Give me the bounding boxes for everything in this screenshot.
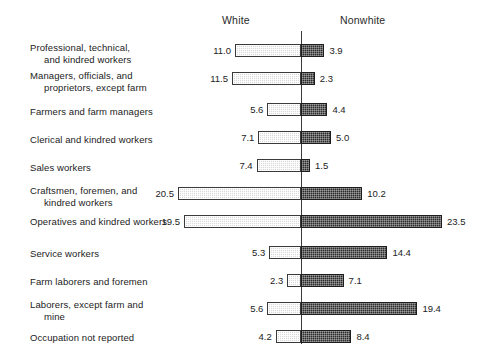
bar-white	[267, 302, 301, 315]
row-label: Operatives and kindred workers	[30, 216, 208, 228]
row-label: Service workers	[30, 248, 208, 260]
row-label-line2: and kindred workers	[30, 54, 208, 66]
row-label-line1: Laborers, except farm and	[30, 299, 143, 310]
bar-nonwhite	[301, 215, 442, 228]
value-label-nonwhite: 10.2	[367, 187, 386, 200]
value-label-white: 5.6	[221, 103, 263, 116]
value-label-white: 4.2	[230, 330, 272, 343]
value-label-white: 11.0	[189, 44, 231, 57]
bar-white	[287, 274, 301, 287]
row-label-line2: mine	[30, 311, 208, 323]
bar-nonwhite	[301, 330, 351, 343]
bar-white	[184, 215, 301, 228]
bar-white	[235, 44, 301, 57]
row-label: Clerical and kindred workers	[30, 134, 208, 146]
row-label: Managers, officials, andproprietors, exc…	[30, 70, 208, 93]
row-label: Professional, technical,and kindred work…	[30, 42, 208, 65]
bar-nonwhite	[301, 159, 310, 172]
row-label-line1: Craftsmen, foremen, and	[30, 185, 137, 196]
row-label-line1: Farmers and farm managers	[30, 106, 153, 117]
bar-white	[232, 72, 301, 85]
value-label-nonwhite: 19.4	[422, 302, 441, 315]
bar-nonwhite	[301, 131, 331, 144]
bar-nonwhite	[301, 187, 362, 200]
bar-nonwhite	[301, 274, 344, 287]
row-label-line1: Managers, officials, and	[30, 70, 133, 81]
row-label: Sales workers	[30, 162, 208, 174]
value-label-nonwhite: 3.9	[329, 44, 342, 57]
bar-nonwhite	[301, 103, 327, 116]
value-label-nonwhite: 4.4	[332, 103, 345, 116]
value-label-nonwhite: 14.4	[392, 246, 411, 259]
row-label-line1: Farm laborers and foremen	[30, 276, 148, 287]
bar-nonwhite	[301, 72, 315, 85]
row-label: Farmers and farm managers	[30, 106, 208, 118]
value-label-white: 5.6	[221, 302, 263, 315]
bar-white	[257, 159, 301, 172]
row-label-line1: Occupation not reported	[30, 332, 134, 343]
bar-white	[258, 131, 301, 144]
bar-white	[267, 103, 301, 116]
value-label-white: 11.5	[186, 72, 228, 85]
bar-nonwhite	[301, 302, 417, 315]
bar-white	[178, 187, 301, 200]
value-label-nonwhite: 23.5	[447, 215, 466, 228]
row-label: Occupation not reported	[30, 332, 208, 344]
column-header-white: White	[222, 14, 250, 26]
row-label-line2: proprietors, except farm	[30, 82, 208, 94]
value-label-white: 7.1	[212, 131, 254, 144]
value-label-white: 5.3	[223, 246, 265, 259]
row-label: Farm laborers and foremen	[30, 276, 208, 288]
value-label-white: 7.4	[211, 159, 253, 172]
row-label-line1: Clerical and kindred workers	[30, 134, 153, 145]
value-label-white: 20.5	[132, 187, 174, 200]
diverging-bar-chart: White Nonwhite Professional, technical,a…	[0, 0, 494, 364]
value-label-nonwhite: 1.5	[315, 159, 328, 172]
value-label-nonwhite: 2.3	[320, 72, 333, 85]
column-header-nonwhite: Nonwhite	[340, 14, 385, 26]
row-label: Laborers, except farm andmine	[30, 299, 208, 322]
bar-nonwhite	[301, 44, 324, 57]
row-label-line1: Professional, technical,	[30, 42, 130, 53]
value-label-nonwhite: 7.1	[349, 274, 362, 287]
value-label-white: 19.5	[138, 215, 180, 228]
value-label-nonwhite: 8.4	[356, 330, 369, 343]
value-label-white: 2.3	[241, 274, 283, 287]
bar-white	[276, 330, 301, 343]
row-label-line1: Service workers	[30, 248, 99, 259]
value-label-nonwhite: 5.0	[336, 131, 349, 144]
bar-white	[269, 246, 301, 259]
row-label-line1: Sales workers	[30, 162, 91, 173]
bar-nonwhite	[301, 246, 387, 259]
